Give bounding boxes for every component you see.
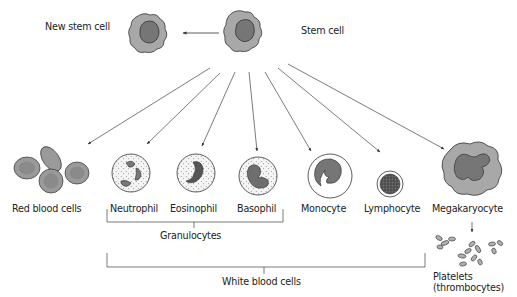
white-blood-cells-bracket — [107, 253, 425, 267]
differentiation-arrows — [88, 64, 444, 152]
granulocytes-label: Granulocytes — [160, 230, 221, 241]
platelets-label: Platelets (thrombocytes) — [433, 271, 504, 293]
megakaryocyte-icon — [442, 142, 502, 195]
white-blood-cells-label: White blood cells — [222, 276, 301, 287]
basophil-icon — [239, 157, 277, 195]
neutrophil-label: Neutrophil — [110, 203, 158, 214]
monocyte-icon — [308, 154, 352, 198]
diagram-canvas — [0, 0, 517, 297]
red-blood-cells-icon — [14, 143, 89, 193]
stem-cell-label: Stem cell — [301, 25, 344, 36]
neutrophil-icon — [112, 154, 150, 192]
lymphocyte-icon — [377, 171, 403, 197]
eosinophil-icon — [177, 154, 215, 192]
eosinophil-label: Eosinophil — [170, 203, 217, 214]
stem-cell-icon — [224, 11, 262, 52]
new-stem-cell-icon — [129, 14, 167, 53]
lymphocyte-label: Lymphocyte — [364, 203, 420, 214]
platelets-icon — [435, 235, 504, 267]
red-blood-cells-label: Red blood cells — [12, 203, 81, 214]
monocyte-label: Monocyte — [301, 203, 346, 214]
new-stem-cell-label: New stem cell — [45, 21, 110, 32]
megakaryocyte-label: Megakaryocyte — [432, 203, 503, 214]
basophil-label: Basophil — [237, 203, 276, 214]
